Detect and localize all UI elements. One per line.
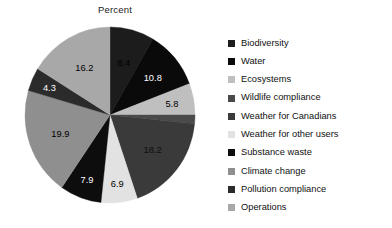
pie-slice-label: 6.9 xyxy=(111,179,124,189)
pie-slice-label: 10.8 xyxy=(144,73,162,83)
legend-item[interactable]: Biodiversity xyxy=(228,34,392,52)
legend-swatch-icon xyxy=(228,149,235,156)
legend-item[interactable]: Pollution compliance xyxy=(228,180,392,198)
legend-item[interactable]: Substance waste xyxy=(228,144,392,162)
legend-item-label: Pollution compliance xyxy=(241,185,326,194)
pie-slice-label: 8.4 xyxy=(117,58,130,68)
legend-item[interactable]: Weather for Canadians xyxy=(228,107,392,125)
legend-item[interactable]: Operations xyxy=(228,199,392,217)
legend-item[interactable]: Weather for other users xyxy=(228,125,392,143)
legend-item-label: Biodiversity xyxy=(241,39,289,48)
pie-slices-group xyxy=(25,27,195,203)
legend-swatch-icon xyxy=(228,58,235,65)
pie-slice-label: 19.9 xyxy=(51,129,69,139)
legend-swatch-icon xyxy=(228,131,235,138)
pie-chart-figure: Percent 8.410.85.81.618.26.97.919.94.316… xyxy=(0,0,392,228)
legend-swatch-icon xyxy=(228,40,235,47)
legend-swatch-icon xyxy=(228,186,235,193)
legend-item[interactable]: Ecosystems xyxy=(228,71,392,89)
legend-item-label: Weather for Canadians xyxy=(241,112,336,121)
pie-svg: 8.410.85.81.618.26.97.919.94.316.2 xyxy=(22,24,198,206)
legend-swatch-icon xyxy=(228,113,235,120)
chart-title: Percent xyxy=(0,4,230,15)
pie-slice-label: 18.2 xyxy=(144,145,162,155)
legend-item-label: Wildlife compliance xyxy=(241,93,321,102)
pie-slice-label: 4.3 xyxy=(43,83,56,93)
legend-item[interactable]: Water xyxy=(228,52,392,70)
chart-legend: BiodiversityWaterEcosystemsWildlife comp… xyxy=(228,34,392,217)
legend-swatch-icon xyxy=(228,76,235,83)
legend-item-label: Water xyxy=(241,57,265,66)
legend-item[interactable]: Wildlife compliance xyxy=(228,89,392,107)
legend-item[interactable]: Climate change xyxy=(228,162,392,180)
legend-item-label: Ecosystems xyxy=(241,75,291,84)
legend-item-label: Climate change xyxy=(241,167,306,176)
legend-swatch-icon xyxy=(228,168,235,175)
pie-slice-label: 16.2 xyxy=(75,63,93,73)
pie-slice-label: 5.8 xyxy=(165,99,178,109)
legend-item-label: Weather for other users xyxy=(241,130,339,139)
pie-slice-label: 7.9 xyxy=(80,175,93,185)
pie-plot-area: 8.410.85.81.618.26.97.919.94.316.2 xyxy=(22,24,198,206)
legend-swatch-icon xyxy=(228,204,235,211)
legend-item-label: Substance waste xyxy=(241,148,312,157)
legend-item-label: Operations xyxy=(241,203,286,212)
legend-swatch-icon xyxy=(228,95,235,102)
